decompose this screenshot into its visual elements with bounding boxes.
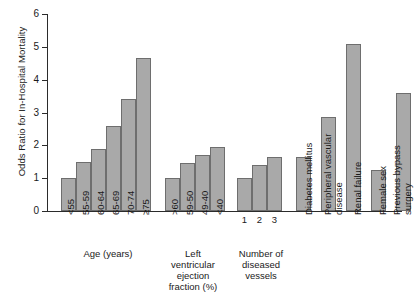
group-caption-vessels-line3: vessels	[225, 270, 297, 281]
group-caption-lvef-line4: fraction (%)	[160, 281, 226, 292]
bar	[267, 157, 282, 211]
group-caption-lvef: Left ventricular ejection fraction (%)	[160, 248, 226, 292]
bar	[136, 58, 151, 211]
group-caption-lvef-line2: ventricular	[160, 259, 226, 270]
tick-label-age-5: 70-74	[126, 191, 136, 215]
tick-label-vessels-2: 2	[252, 215, 267, 225]
group-caption-vessels: Number of diseased vessels	[225, 248, 297, 281]
y-tick-label: 2	[33, 140, 39, 150]
group-caption-lvef-line3: ejection	[160, 270, 226, 281]
y-tick-label: 1	[33, 173, 39, 183]
y-tick-label: 0	[33, 206, 39, 216]
y-tick-label: 3	[33, 108, 39, 118]
group-caption-diabetes: Diabetes mellitus	[304, 143, 315, 215]
group-caption-vessels-line1: Number of	[225, 248, 297, 259]
group-caption-bypass-line1: Previous bypass	[391, 145, 402, 215]
plot-area: 0 1 2 3 4 5 6	[47, 14, 402, 211]
y-tick-label: 5	[33, 42, 39, 52]
group-caption-pvd-line1: Peripheral vascular	[322, 134, 333, 215]
group-caption-bypass-2: surgery	[403, 183, 414, 215]
tick-label-age-4: 65-69	[111, 191, 121, 215]
group-caption-renal: Renal failure	[353, 162, 364, 215]
tick-label-age-1: <55	[66, 199, 76, 215]
bar	[237, 178, 252, 211]
tick-label-lvef-1: >60	[170, 199, 180, 215]
tick-label-lvef-2: 59-50	[185, 191, 195, 215]
y-tick-label: 4	[33, 75, 39, 85]
group-caption-pvd: Peripheral vascular	[323, 134, 334, 215]
y-tick-mark	[42, 211, 47, 212]
bars-container	[47, 14, 402, 211]
y-axis-label: Odds Ratio for In-Hospital Mortality	[16, 2, 27, 202]
tick-label-vessels-1: 1	[237, 215, 252, 225]
group-caption-lvef-line1: Left	[160, 248, 226, 259]
y-tick-label: 6	[33, 9, 39, 19]
group-caption-bypass-line2: surgery	[402, 183, 413, 215]
group-caption-vessels-line2: diseased	[225, 259, 297, 270]
tick-label-age-2: 55-59	[81, 191, 91, 215]
group-caption-bypass: Previous bypass	[392, 145, 403, 215]
group-caption-age: Age (years)	[61, 248, 155, 259]
group-caption-female: Female sex	[378, 166, 389, 215]
group-caption-pvd-line2: disease	[333, 182, 344, 215]
tick-label-age-6: ≥75	[141, 199, 151, 215]
tick-label-age-3: 60-64	[96, 191, 106, 215]
tick-label-lvef-3: 49-40	[200, 191, 210, 215]
tick-label-vessels-3: 3	[267, 215, 282, 225]
tick-label-lvef-4: <40	[215, 199, 225, 215]
bar	[252, 165, 267, 211]
group-caption-pvd-2: disease	[334, 182, 345, 215]
